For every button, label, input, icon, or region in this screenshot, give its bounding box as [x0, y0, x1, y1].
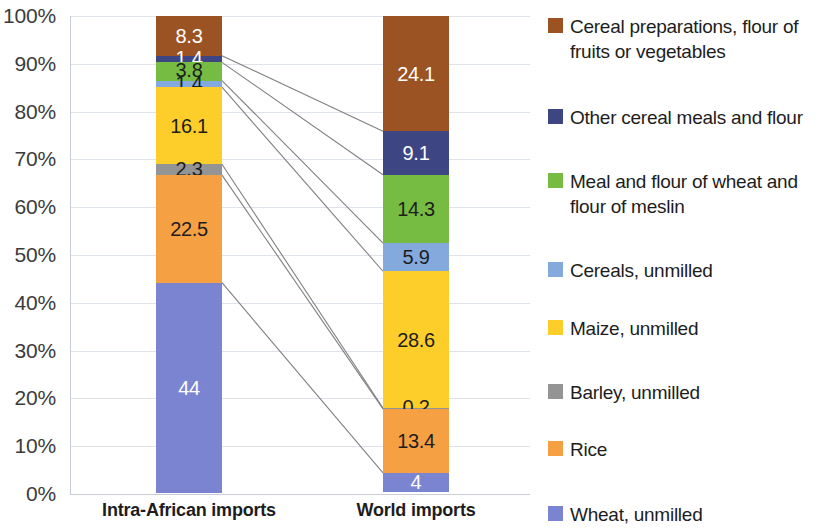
legend-item[interactable]: Cereal preparations, flour of fruits or … — [548, 14, 820, 64]
gridline — [70, 16, 530, 17]
gridline — [70, 159, 530, 160]
legend-label: Other cereal meals and flour — [570, 105, 803, 130]
y-axis-tick-labels: 0%10%20%30%40%50%60%70%80%90%100% — [0, 0, 64, 532]
bar-segment: 2.3 — [156, 164, 222, 175]
bar-intra-african-imports: 8.31.43.81.416.12.322.544 — [156, 16, 222, 494]
bar-segment-value-label: 14.3 — [397, 199, 435, 219]
bar-segment-value-label: 16.1 — [170, 116, 208, 136]
legend-color-swatch — [548, 441, 563, 456]
plot-area: 8.31.43.81.416.12.322.544 24.19.114.35.9… — [70, 16, 530, 494]
legend-item[interactable]: Wheat, unmilled — [548, 502, 702, 527]
bar-segment: 22.5 — [156, 175, 222, 283]
bar-segment: 14.3 — [383, 175, 449, 243]
legend-label: Cereals, unmilled — [570, 258, 713, 283]
legend-label: Meal and flour of wheat and flour of mes… — [570, 169, 820, 219]
y-axis-tick-label: 10% — [15, 434, 56, 458]
legend-color-swatch — [548, 173, 563, 188]
y-axis-tick-label: 80% — [15, 100, 56, 124]
bar-segment-value-label: 22.5 — [170, 219, 208, 239]
legend-label: Maize, unmilled — [570, 316, 698, 341]
gridline — [70, 446, 530, 447]
gridline — [70, 494, 530, 495]
x-axis-category-label: Intra-African imports — [79, 500, 299, 521]
gridline — [70, 207, 530, 208]
bar-segment-value-label: 5.9 — [403, 247, 430, 267]
bar-segment: 1.4 — [156, 81, 222, 88]
y-axis-line — [70, 16, 71, 494]
bar-segment: 44 — [156, 283, 222, 493]
legend-item[interactable]: Maize, unmilled — [548, 316, 698, 341]
y-axis-tick-label: 70% — [15, 147, 56, 171]
bar-segment-value-label: 24.1 — [397, 64, 435, 84]
x-axis-category-labels: Intra-African importsWorld imports — [70, 500, 530, 530]
gridlines — [70, 16, 530, 494]
gridline — [70, 112, 530, 113]
legend-item[interactable]: Meal and flour of wheat and flour of mes… — [548, 169, 820, 219]
legend-label: Barley, unmilled — [570, 380, 700, 405]
gridline — [70, 351, 530, 352]
legend-item[interactable]: Other cereal meals and flour — [548, 105, 803, 130]
y-axis-tick-label: 20% — [15, 386, 56, 410]
stacked-bar-chart: 0%10%20%30%40%50%60%70%80%90%100% 8.31.4… — [0, 0, 824, 532]
y-axis-tick-label: 50% — [15, 243, 56, 267]
bar-segment: 28.6 — [383, 271, 449, 408]
gridline — [70, 64, 530, 65]
y-axis-tick-label: 60% — [15, 195, 56, 219]
y-axis-tick-label: 40% — [15, 291, 56, 315]
legend-color-swatch — [548, 320, 563, 335]
legend-color-swatch — [548, 109, 563, 124]
bar-segment-value-label: 9.1 — [403, 143, 430, 163]
y-axis-tick-label: 0% — [26, 482, 56, 506]
gridline — [70, 303, 530, 304]
bar-segment: 9.1 — [383, 131, 449, 174]
legend-color-swatch — [548, 18, 563, 33]
gridline — [70, 255, 530, 256]
y-axis-tick-label: 30% — [15, 339, 56, 363]
y-axis-tick-label: 90% — [15, 52, 56, 76]
legend-item[interactable]: Rice — [548, 437, 607, 462]
bar-segment: 16.1 — [156, 87, 222, 164]
legend-item[interactable]: Cereals, unmilled — [548, 258, 713, 283]
legend-item[interactable]: Barley, unmilled — [548, 380, 700, 405]
bar-segment-value-label: 8.3 — [176, 26, 203, 46]
bar-segment-value-label: 44 — [178, 378, 200, 398]
legend-label: Cereal preparations, flour of fruits or … — [570, 14, 820, 64]
bar-segment-value-label: 4 — [411, 472, 422, 492]
chart-legend: Cereal preparations, flour of fruits or … — [548, 4, 824, 528]
bar-segment: 13.4 — [383, 409, 449, 473]
legend-label: Wheat, unmilled — [570, 502, 702, 527]
legend-label: Rice — [570, 437, 607, 462]
y-axis-tick-label: 100% — [3, 4, 56, 28]
gridline — [70, 398, 530, 399]
x-axis-category-label: World imports — [306, 500, 526, 521]
bar-segment-value-label: 28.6 — [397, 330, 435, 350]
legend-color-swatch — [548, 262, 563, 277]
bar-segment: 5.9 — [383, 243, 449, 271]
bar-segment: 4 — [383, 473, 449, 492]
bar-world-imports: 24.19.114.35.928.60.213.44 — [383, 16, 449, 494]
bar-segment-value-label: 13.4 — [397, 431, 435, 451]
bar-segment: 24.1 — [383, 16, 449, 131]
legend-color-swatch — [548, 506, 563, 521]
legend-color-swatch — [548, 384, 563, 399]
